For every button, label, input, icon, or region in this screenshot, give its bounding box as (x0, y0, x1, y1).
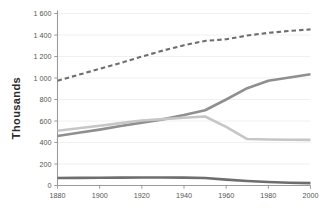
y-tick-label-1400: 1 400 (34, 31, 52, 40)
y-tick-label-0: 0 (48, 181, 52, 190)
x-tick-labels-group: 1880190019201940196019802000 (50, 191, 319, 200)
y-tick-label-1200: 1 200 (34, 52, 52, 61)
y-axis-title: Thousands (10, 77, 22, 139)
x-tick-label-1920: 1920 (134, 191, 150, 200)
series-line-2 (58, 116, 311, 139)
x-tick-label-1880: 1880 (50, 191, 66, 200)
x-tick-label-1960: 1960 (218, 191, 234, 200)
y-tick-label-200: 200 (40, 160, 52, 169)
y-tick-label-1000: 1 000 (34, 74, 52, 83)
series-line-0 (58, 29, 311, 80)
x-tick-label-2000: 2000 (303, 191, 319, 200)
y-tick-label-800: 800 (40, 95, 52, 104)
y-tick-label-600: 600 (40, 117, 52, 126)
y-tick-labels-group: 02004006008001 0001 2001 4001 600 (34, 9, 52, 190)
x-tick-label-1940: 1940 (176, 191, 192, 200)
y-tick-label-1600: 1 600 (34, 9, 52, 18)
x-tick-label-1900: 1900 (92, 191, 108, 200)
x-tick-label-1980: 1980 (260, 191, 276, 200)
series-line-3 (58, 178, 311, 184)
series-group (58, 29, 311, 183)
y-tick-label-400: 400 (40, 138, 52, 147)
chart-canvas: 02004006008001 0001 2001 4001 600 188019… (0, 0, 326, 213)
gridlines-group (58, 14, 311, 165)
line-chart: 02004006008001 0001 2001 4001 600 188019… (0, 0, 326, 213)
